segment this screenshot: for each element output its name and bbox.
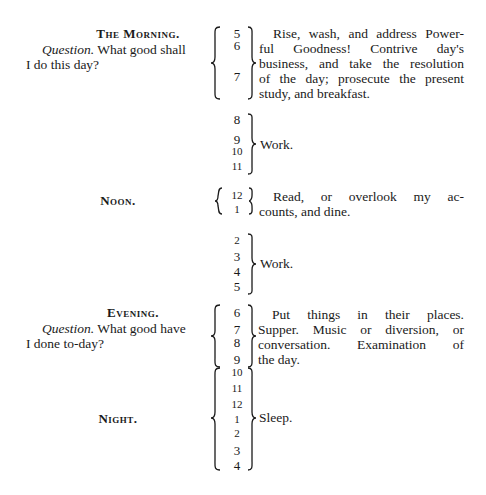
morning-heading: The Morning. bbox=[78, 26, 198, 42]
right-brace-icon bbox=[246, 25, 258, 101]
right-brace-icon bbox=[246, 112, 258, 176]
left-brace-icon bbox=[213, 186, 225, 216]
evening-question-cont: I done to-day? bbox=[26, 336, 104, 352]
work-am-label: Work. bbox=[260, 137, 293, 153]
evening-heading: Evening. bbox=[78, 305, 188, 321]
left-brace-icon bbox=[210, 25, 224, 101]
morning-question: Question. What good shall bbox=[42, 42, 186, 58]
question-label: Question. bbox=[42, 42, 94, 57]
question-label: Question. bbox=[42, 321, 94, 336]
night-heading: Night. bbox=[78, 411, 158, 427]
left-brace-icon bbox=[210, 366, 224, 472]
noon-heading: Noon. bbox=[78, 193, 158, 209]
question-text: What good have bbox=[94, 321, 186, 336]
right-brace-icon bbox=[246, 303, 258, 369]
evening-question: Question. What good have bbox=[42, 321, 186, 337]
noon-description: Read, or overlook my ac- counts, and din… bbox=[259, 189, 464, 219]
evening-description: Put things in their places. Supper. Musi… bbox=[258, 307, 464, 367]
night-label: Sleep. bbox=[259, 410, 292, 426]
work-pm-label: Work. bbox=[260, 256, 293, 272]
right-brace-icon bbox=[246, 366, 258, 472]
left-brace-icon bbox=[210, 303, 224, 369]
right-brace-icon bbox=[246, 232, 258, 296]
question-text: What good shall bbox=[94, 42, 186, 57]
morning-description: Rise, wash, and address Power- ful Goodn… bbox=[259, 26, 464, 101]
right-brace-icon bbox=[246, 186, 258, 216]
morning-question-cont: I do this day? bbox=[26, 57, 99, 73]
